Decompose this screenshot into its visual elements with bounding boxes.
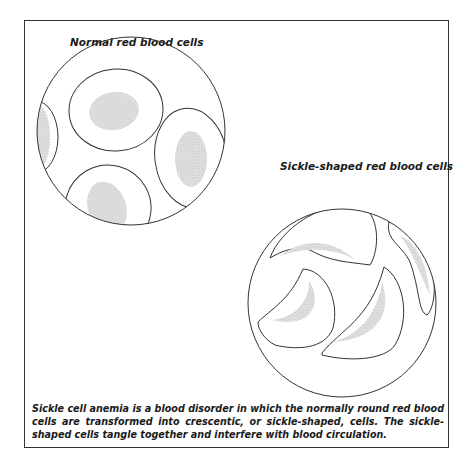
figure-caption: Sickle cell anemia is a blood disorder i… bbox=[32, 402, 444, 441]
cells-illustration bbox=[0, 0, 474, 463]
sickle-cells-circle bbox=[248, 205, 436, 397]
normal-cells-circle bbox=[14, 37, 234, 261]
